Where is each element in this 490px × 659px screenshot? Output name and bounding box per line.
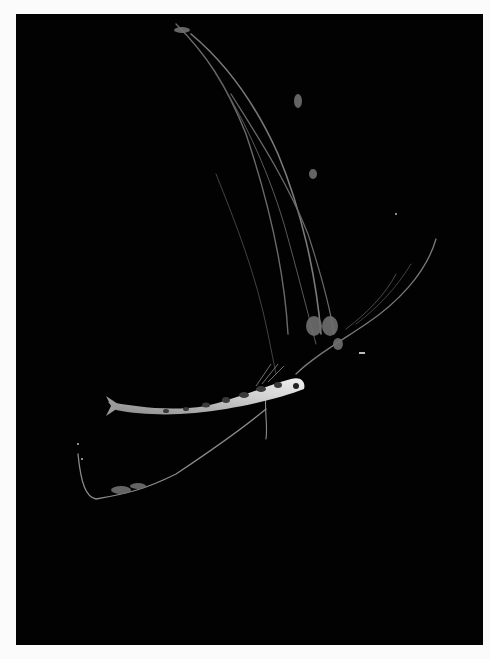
photo-frame [16,14,483,645]
larval-fish-illustration [16,14,483,645]
